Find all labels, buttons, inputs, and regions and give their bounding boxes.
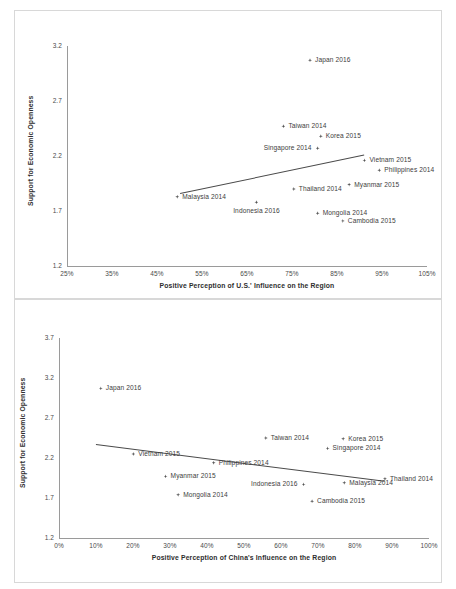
chart-panel-us-influence: 1.21.72.22.73.225%35%45%55%65%75%85%95%1… (14, 10, 442, 299)
x-tick-label: 90% (376, 542, 408, 549)
data-point-label: Taiwan 2014 (271, 434, 309, 441)
x-tick-label: 95% (366, 270, 398, 277)
data-point-marker[interactable] (264, 436, 268, 440)
y-axis-title: Support for Economic Openness (27, 96, 34, 206)
data-point-label: Thailand 2014 (390, 475, 433, 482)
y-axis-title: Support for Economic Openness (19, 378, 26, 488)
data-point-marker[interactable] (362, 158, 366, 162)
data-point-label: Indonesia 2016 (233, 207, 280, 214)
data-point-marker[interactable] (377, 168, 381, 172)
data-point-marker[interactable] (316, 211, 320, 215)
data-point-label: Philippines 2014 (219, 459, 269, 466)
data-point-label: Cambodia 2015 (317, 497, 365, 504)
x-tick-label: 30% (154, 542, 186, 549)
x-tick-label: 85% (321, 270, 353, 277)
data-point-marker[interactable] (131, 452, 135, 456)
data-point-marker[interactable] (212, 461, 216, 465)
data-point-label: Vietnam 2015 (369, 156, 411, 163)
data-point-marker[interactable] (176, 493, 180, 497)
y-axis-line (59, 338, 60, 538)
x-axis-line (59, 538, 429, 539)
data-point-label: Mongolia 2014 (323, 209, 368, 216)
x-tick-label: 50% (228, 542, 260, 549)
data-point-label: Japan 2016 (315, 56, 350, 63)
x-tick-label: 100% (413, 542, 445, 549)
y-tick-label: 1.7 (41, 207, 62, 214)
y-tick-label: 2.7 (33, 414, 54, 421)
y-tick-label: 3.7 (33, 334, 54, 341)
data-point-label: Mongolia 2014 (183, 491, 228, 498)
data-point-marker[interactable] (302, 482, 306, 486)
data-point-label: Taiwan 2014 (288, 122, 326, 129)
data-point-marker[interactable] (164, 474, 168, 478)
x-tick-label: 55% (186, 270, 218, 277)
data-point-marker[interactable] (175, 195, 179, 199)
data-point-marker[interactable] (99, 386, 103, 390)
x-tick-label: 10% (80, 542, 112, 549)
data-point-label: Malaysia 2014 (182, 193, 226, 200)
data-point-marker[interactable] (341, 219, 345, 223)
y-tick-label: 3.2 (41, 42, 62, 49)
data-point-label: Cambodia 2015 (348, 217, 396, 224)
data-point-label: Philippines 2014 (384, 166, 434, 173)
x-axis-line (67, 266, 427, 267)
scatter-plot-china-influence: 1.21.72.22.73.23.70%10%20%30%40%50%60%70… (59, 338, 429, 538)
x-tick-label: 25% (51, 270, 83, 277)
x-tick-label: 40% (191, 542, 223, 549)
x-tick-label: 60% (265, 542, 297, 549)
x-tick-label: 35% (96, 270, 128, 277)
x-tick-label: 45% (141, 270, 173, 277)
data-point-label: Myanmar 2015 (171, 472, 216, 479)
y-tick-label: 1.2 (33, 534, 54, 541)
x-tick-label: 70% (302, 542, 334, 549)
data-point-label: Singapore 2014 (333, 444, 381, 451)
data-point-marker[interactable] (341, 437, 345, 441)
data-point-label: Indonesia 2016 (251, 480, 298, 487)
data-point-label: Japan 2016 (106, 384, 141, 391)
x-tick-label: 80% (339, 542, 371, 549)
x-tick-label: 20% (117, 542, 149, 549)
data-point-marker[interactable] (326, 446, 330, 450)
y-tick-label: 2.2 (41, 152, 62, 159)
data-point-marker[interactable] (342, 481, 346, 485)
data-point-label: Singapore 2014 (264, 144, 312, 151)
data-point-label: Malaysia 2014 (349, 479, 393, 486)
x-tick-label: 75% (276, 270, 308, 277)
data-point-marker[interactable] (308, 58, 312, 62)
scatter-plot-us-influence: 1.21.72.22.73.225%35%45%55%65%75%85%95%1… (67, 46, 427, 266)
data-point-marker[interactable] (319, 134, 323, 138)
data-point-marker[interactable] (316, 146, 320, 150)
data-point-marker[interactable] (281, 124, 285, 128)
y-axis-line (67, 46, 68, 266)
x-axis-title: Positive Perception of U.S.' Influence o… (67, 282, 427, 289)
y-tick-label: 1.7 (33, 494, 54, 501)
data-point-marker[interactable] (310, 499, 314, 503)
data-point-marker[interactable] (254, 200, 258, 204)
data-point-label: Myanmar 2015 (354, 181, 399, 188)
x-tick-label: 105% (411, 270, 443, 277)
data-point-marker[interactable] (347, 183, 351, 187)
y-tick-label: 1.2 (41, 262, 62, 269)
figure-page: 1.21.72.22.73.225%35%45%55%65%75%85%95%1… (0, 0, 456, 589)
y-tick-label: 2.7 (41, 97, 62, 104)
data-point-marker[interactable] (292, 187, 296, 191)
data-point-label: Korea 2015 (326, 132, 361, 139)
x-tick-label: 0% (43, 542, 75, 549)
chart-panel-china-influence: 1.21.72.22.73.23.70%10%20%30%40%50%60%70… (14, 299, 442, 583)
data-point-label: Vietnam 2015 (138, 450, 180, 457)
y-tick-label: 3.2 (33, 374, 54, 381)
y-tick-label: 2.2 (33, 454, 54, 461)
data-point-label: Thailand 2014 (299, 185, 342, 192)
x-axis-title: Positive Perception of China's Influence… (59, 554, 429, 561)
x-tick-label: 65% (231, 270, 263, 277)
data-point-label: Korea 2015 (348, 435, 383, 442)
